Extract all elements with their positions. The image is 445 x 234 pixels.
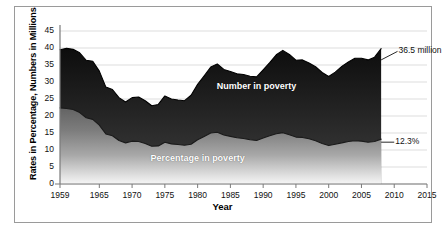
x-tick-label: 2015 bbox=[409, 190, 445, 200]
y-tick-label: 25 bbox=[36, 93, 54, 103]
x-tick-label: 2000 bbox=[311, 190, 347, 200]
annotation-label: 12.3% bbox=[395, 136, 419, 146]
y-tick-label: 40 bbox=[36, 42, 54, 52]
y-tick-label: 20 bbox=[36, 110, 54, 120]
x-tick-label: 1990 bbox=[245, 190, 281, 200]
annotation-label: 36.5 million bbox=[399, 45, 442, 55]
y-tick-label: 5 bbox=[36, 161, 54, 171]
y-tick-label: 15 bbox=[36, 127, 54, 137]
chart-frame: Rates in Percentage, Numbers in Millions… bbox=[14, 6, 432, 223]
series-label-percentage-in-poverty: Percentage in poverty bbox=[151, 153, 245, 163]
x-tick-label: 1965 bbox=[81, 190, 117, 200]
x-tick-label: 1959 bbox=[42, 190, 78, 200]
x-tick-label: 1985 bbox=[212, 190, 248, 200]
x-tick-label: 1975 bbox=[147, 190, 183, 200]
y-tick-label: 30 bbox=[36, 76, 54, 86]
y-tick-label: 10 bbox=[36, 144, 54, 154]
y-tick-label: 35 bbox=[36, 59, 54, 69]
chart-figure: Rates in Percentage, Numbers in Millions… bbox=[0, 0, 445, 234]
y-tick-label: 0 bbox=[36, 178, 54, 188]
x-tick-label: 1995 bbox=[278, 190, 314, 200]
x-axis-title: Year bbox=[0, 201, 445, 212]
x-tick-label: 1980 bbox=[180, 190, 216, 200]
series-label-number-in-poverty: Number in poverty bbox=[217, 81, 297, 91]
y-tick-label: 45 bbox=[36, 25, 54, 35]
x-tick-label: 1970 bbox=[114, 190, 150, 200]
x-tick-label: 2010 bbox=[376, 190, 412, 200]
x-tick-label: 2005 bbox=[343, 190, 379, 200]
tick-marks bbox=[60, 184, 427, 188]
